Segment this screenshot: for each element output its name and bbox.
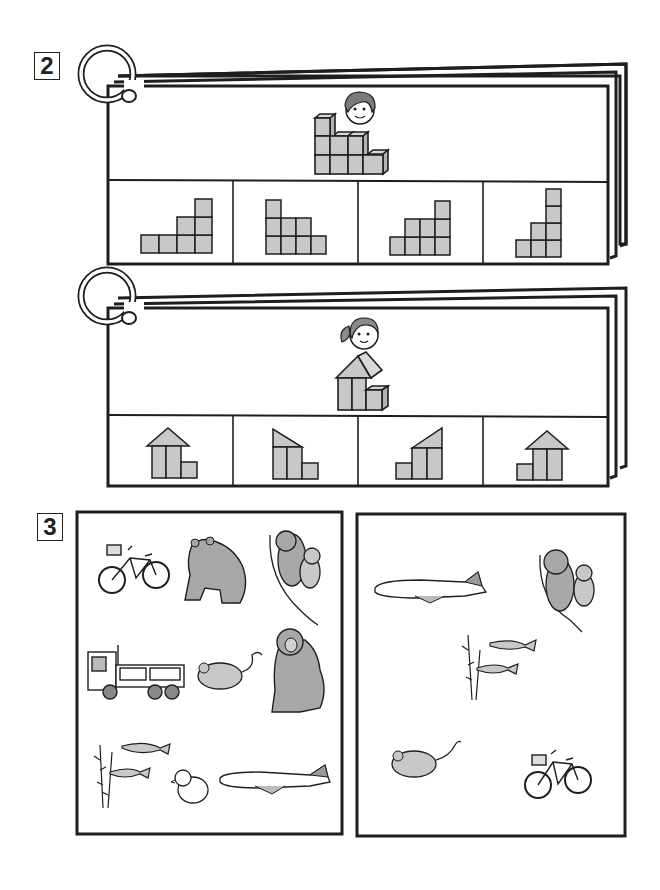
picture-panels [0,0,660,890]
right-picture-panel [357,514,625,836]
